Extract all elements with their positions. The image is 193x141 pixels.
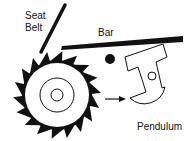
seat-belt-label-line1: Seat [25, 10, 46, 21]
pendulum-label: Pendulum [137, 121, 182, 132]
arrow-icon [105, 96, 126, 102]
pendulum [125, 44, 167, 104]
pivot-dot [105, 54, 115, 64]
ratchet-wheel [13, 51, 101, 138]
bar-label: Bar [98, 27, 114, 38]
seat-belt-label-line2: Belt [25, 22, 42, 33]
